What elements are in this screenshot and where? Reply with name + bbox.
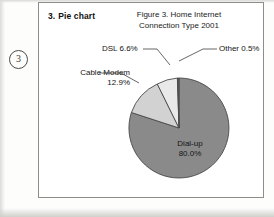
pie-label-other: Other 0.5%	[219, 44, 259, 54]
pie-label-cable-modem: Cable Modem 12.9%	[52, 68, 130, 88]
scan-edge-bottom	[0, 208, 274, 217]
exercise-number-marker: 3	[9, 50, 28, 69]
leader-line-dsl	[143, 49, 170, 65]
pie-label-dialup-value: 80.0%	[164, 149, 216, 159]
pie-label-dsl: DSL 6.6%	[102, 44, 138, 54]
pie-label-cable-modem-name: Cable Modem	[52, 68, 130, 78]
scanned-page: 3 3.Pie chart Figure 3. Home Internet Co…	[0, 0, 274, 217]
pie-chart-plot: DSL 6.6% Other 0.5% Cable Modem 12.9% Di…	[39, 3, 265, 199]
scan-edge-left	[0, 0, 5, 217]
pie-label-dialup-name: Dial-up	[164, 139, 216, 149]
figure-frame: 3.Pie chart Figure 3. Home Internet Conn…	[38, 2, 264, 198]
pie-label-cable-modem-value: 12.9%	[52, 78, 130, 88]
leader-line-other	[179, 49, 217, 61]
pie-label-dialup: Dial-up 80.0%	[164, 139, 216, 159]
pie-chart-svg	[39, 3, 265, 199]
